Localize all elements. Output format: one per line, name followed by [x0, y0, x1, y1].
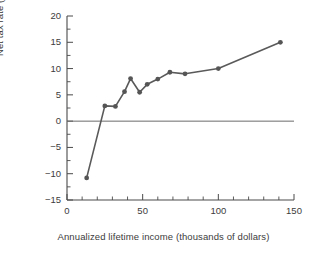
- data-point: [137, 90, 142, 95]
- y-tick-label: 5: [35, 90, 61, 100]
- data-point: [122, 89, 127, 94]
- series-line-0: [87, 42, 281, 178]
- plot-area: [67, 16, 294, 200]
- data-point: [102, 104, 107, 109]
- x-tick-label: 100: [205, 206, 231, 216]
- y-tick-label: 15: [35, 37, 61, 47]
- data-point: [183, 71, 188, 76]
- data-point: [155, 77, 160, 82]
- y-tick-label: −10: [35, 169, 61, 179]
- y-tick-label: 20: [35, 11, 61, 21]
- chart-figure: Net tax rate (percent) −15−10−505101520 …: [0, 0, 327, 253]
- data-point: [168, 70, 173, 75]
- y-tick-label: 0: [35, 116, 61, 126]
- x-axis-label: Annualized lifetime income (thousands of…: [0, 231, 327, 242]
- data-point: [113, 104, 118, 109]
- x-tick-label: 50: [130, 206, 156, 216]
- y-tick-label: 10: [35, 64, 61, 74]
- y-tick-label: −5: [35, 142, 61, 152]
- y-tick-label: −15: [35, 195, 61, 205]
- x-tick-label: 0: [54, 206, 80, 216]
- y-axis-label: Net tax rate (percent): [0, 0, 5, 56]
- data-point: [278, 40, 283, 45]
- data-point: [216, 66, 221, 71]
- x-tick-label: 150: [281, 206, 307, 216]
- series-layer: [67, 16, 307, 216]
- data-point: [84, 176, 89, 181]
- data-point: [128, 76, 133, 81]
- data-point: [145, 82, 150, 87]
